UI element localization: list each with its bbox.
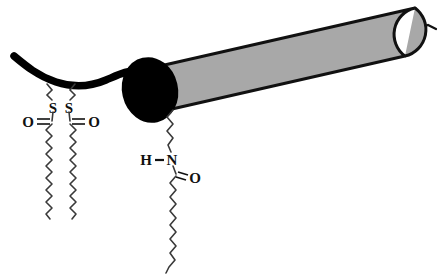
- hydrogen-label: H: [140, 152, 152, 168]
- figure-root: S S O O H N O: [0, 0, 442, 279]
- molecular-diagram: S S O O H N O: [0, 0, 442, 279]
- oxygen-left-label: O: [22, 114, 34, 130]
- bond-sulfur-right-to-carbonyl: [69, 112, 70, 121]
- oxygen-amide-label: O: [189, 170, 201, 186]
- bond-sulfur-left-to-carbonyl: [52, 112, 53, 121]
- oxygen-right-label: O: [88, 114, 100, 130]
- nitrogen-label: N: [167, 152, 178, 168]
